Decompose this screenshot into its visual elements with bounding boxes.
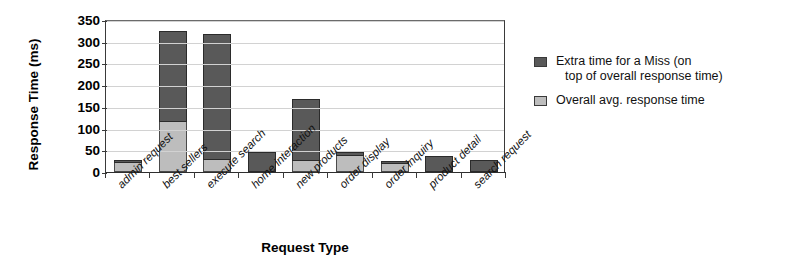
chart-legend: Extra time for a Miss (on top of overall… bbox=[534, 54, 782, 117]
legend-label-overall-avg: Overall avg. response time bbox=[556, 93, 705, 108]
x-tick-mark bbox=[283, 172, 284, 178]
x-tick-mark bbox=[416, 172, 417, 178]
x-tick-mark bbox=[461, 172, 462, 178]
x-tick-mark bbox=[149, 172, 150, 178]
legend-label-line1: Overall avg. response time bbox=[556, 93, 705, 107]
x-tick-mark bbox=[194, 172, 195, 178]
legend-swatch-light-icon bbox=[534, 96, 547, 106]
x-tick-mark bbox=[105, 172, 106, 178]
x-axis-category-labels: admin requestbest sellersexecute searchh… bbox=[0, 0, 786, 269]
legend-label-line1: Extra time for a Miss (on bbox=[556, 54, 691, 68]
legend-swatch-dark-icon bbox=[534, 57, 547, 67]
x-tick-mark bbox=[372, 172, 373, 178]
x-tick-mark bbox=[505, 172, 506, 178]
legend-item-extra-miss: Extra time for a Miss (on top of overall… bbox=[534, 54, 782, 84]
legend-label-line2: top of overall response time) bbox=[556, 69, 723, 84]
legend-item-overall-avg: Overall avg. response time bbox=[534, 93, 782, 108]
x-tick-mark bbox=[238, 172, 239, 178]
x-axis-title: Request Type bbox=[105, 240, 505, 255]
x-tick-mark bbox=[327, 172, 328, 178]
x-category-label: best sellers bbox=[160, 141, 210, 191]
legend-label-extra-miss: Extra time for a Miss (on top of overall… bbox=[556, 54, 723, 84]
chart-container: Response Time (ms) 050100150200250300350… bbox=[0, 0, 786, 269]
